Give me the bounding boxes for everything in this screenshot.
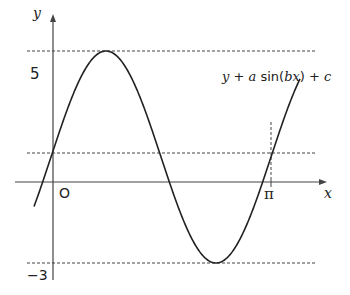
eq-c: c xyxy=(324,69,331,84)
x-pi-label: π xyxy=(264,187,274,202)
graph-canvas xyxy=(0,0,350,295)
y-max-label: 5 xyxy=(30,67,40,82)
eq-plus1: + xyxy=(229,69,248,84)
eq-close: ) + xyxy=(300,69,324,84)
y-axis-label: y xyxy=(33,6,41,20)
y-min-label: −3 xyxy=(27,268,48,282)
origin-label: O xyxy=(59,186,70,200)
curve-equation-label: y + a sin(bx) + c xyxy=(222,70,331,83)
x-axis-label: x xyxy=(324,186,332,200)
eq-bx: bx xyxy=(284,69,300,84)
eq-sin: sin( xyxy=(256,69,284,84)
y-axis-arrow-icon xyxy=(50,14,56,22)
